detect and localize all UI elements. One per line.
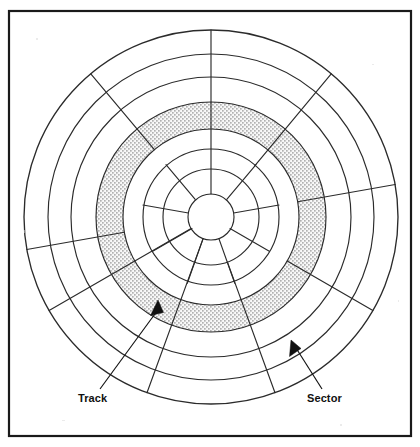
figure-root: Track Sector <box>0 0 420 447</box>
sector-label: Sector <box>307 392 342 404</box>
track-label: Track <box>78 392 108 404</box>
disk-platter-diagram: Track Sector <box>0 0 420 447</box>
